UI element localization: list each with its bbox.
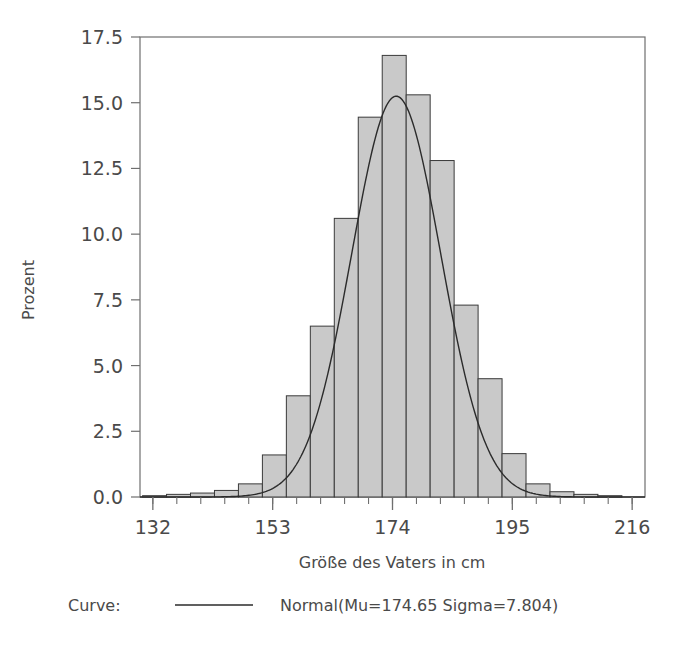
legend-entry-label: Normal(Mu=174.65 Sigma=7.804)	[280, 596, 558, 615]
histogram-bar	[310, 326, 334, 497]
histogram-bar	[358, 117, 382, 497]
histogram-figure: 0.02.55.07.510.012.515.017.5 13215317419…	[0, 0, 688, 651]
histogram-bar	[334, 218, 358, 497]
x-tick-label: 174	[374, 516, 410, 538]
x-tick-label: 216	[614, 516, 650, 538]
histogram-bar	[382, 55, 406, 497]
histogram-bar	[406, 95, 430, 497]
y-tick-label: 0.0	[93, 486, 123, 508]
histogram-bar	[478, 379, 502, 497]
y-tick-label: 7.5	[93, 289, 123, 311]
x-axis-title: Größe des Vaters in cm	[299, 553, 486, 572]
x-tick-label: 132	[135, 516, 171, 538]
y-tick-label: 15.0	[81, 92, 123, 114]
legend-label: Curve:	[68, 596, 121, 615]
histogram-bar	[454, 305, 478, 497]
y-tick-label: 2.5	[93, 420, 123, 442]
y-tick-label: 12.5	[81, 157, 123, 179]
chart-canvas: 0.02.55.07.510.012.515.017.5 13215317419…	[0, 0, 688, 651]
y-tick-label: 5.0	[93, 355, 123, 377]
histogram-bar	[430, 161, 454, 497]
y-tick-label: 10.0	[81, 223, 123, 245]
y-axis-title: Prozent	[19, 260, 38, 320]
x-tick-label: 153	[255, 516, 291, 538]
y-tick-label: 17.5	[81, 26, 123, 48]
histogram-bar	[286, 396, 310, 497]
x-tick-label: 195	[494, 516, 530, 538]
